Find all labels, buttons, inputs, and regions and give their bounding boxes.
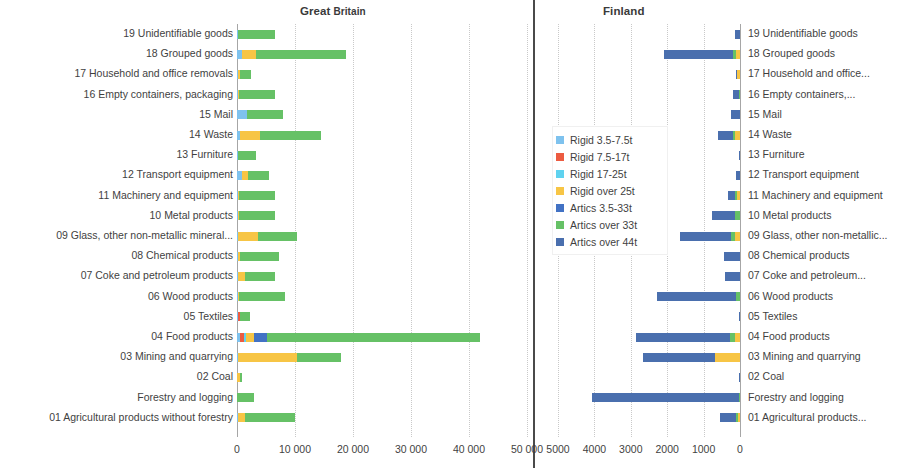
fi-bar-segment (737, 70, 740, 79)
gb-bar-segment (239, 191, 275, 200)
gb-stacked-bar (237, 191, 275, 200)
chart-page: Great Britain 19 Unidentifiable goods18 … (0, 0, 917, 468)
fi-category-label: 05 Textiles (748, 311, 917, 322)
fi-stacked-bar (739, 151, 740, 160)
fi-stacked-bar (731, 110, 740, 119)
gb-stacked-bar (237, 110, 283, 119)
fi-bar-segment (738, 413, 740, 422)
gb-stacked-bar (237, 312, 250, 321)
fi-bar-segment (725, 272, 740, 281)
gb-category-label: 19 Unidentifiable goods (0, 28, 233, 39)
fi-bar-segment (735, 333, 740, 342)
fi-bar-segment (718, 131, 734, 140)
legend-item[interactable]: Rigid 7.5-17t (556, 148, 664, 165)
great-britain-title: Great Britain (300, 5, 366, 17)
gb-bar-segment (245, 272, 276, 281)
gb-bar-segment (240, 373, 242, 382)
fi-stacked-bar (736, 171, 740, 180)
gb-category-label: 03 Mining and quarrying (0, 351, 233, 362)
fi-category-label: 12 Transport equipment (748, 169, 917, 180)
fi-stacked-bar (739, 312, 740, 321)
gb-stacked-bar (237, 151, 256, 160)
gb-stacked-bar (237, 333, 480, 342)
fi-bar-segment (731, 110, 740, 119)
gb-stacked-bar (237, 272, 275, 281)
gb-bar-segment (239, 90, 275, 99)
legend-swatch-icon (556, 221, 564, 229)
fi-bar-segment (737, 191, 740, 200)
gb-stacked-bar (237, 211, 275, 220)
legend-swatch-icon (556, 170, 564, 178)
gb-gridline (411, 24, 413, 437)
gb-bar-segment (256, 50, 346, 59)
fi-category-label: 04 Food products (748, 331, 917, 342)
gb-category-label: 11 Machinery and equipment (0, 190, 233, 201)
gb-category-label: 02 Coal (0, 371, 233, 382)
fi-bar-segment (664, 50, 733, 59)
fi-bar-segment (736, 292, 740, 301)
gb-bar-segment (238, 353, 297, 362)
legend-item[interactable]: Rigid 3.5-7.5t (556, 131, 664, 148)
fi-category-label: 19 Unidentifiable goods (748, 28, 917, 39)
gb-stacked-bar (237, 70, 251, 79)
gb-bar-segment (238, 151, 257, 160)
gb-category-label: 15 Mail (0, 109, 233, 120)
fi-category-label: 08 Chemical products (748, 250, 917, 261)
gb-stacked-bar (237, 50, 346, 59)
legend-label: Artics over 33t (570, 219, 637, 231)
legend-swatch-icon (556, 153, 564, 161)
gb-stacked-bar (237, 413, 295, 422)
gb-category-label: 10 Metal products (0, 210, 233, 221)
legend-item[interactable]: Rigid 17-25t (556, 165, 664, 182)
fi-bar-segment (739, 393, 740, 402)
fi-bar-segment (724, 252, 740, 261)
fi-bar-segment (735, 232, 740, 241)
fi-category-label: 18 Grouped goods (748, 48, 917, 59)
fi-category-label: 11 Machinery and equipment (748, 190, 917, 201)
fi-bar-segment (592, 393, 738, 402)
gb-category-label: 04 Food products (0, 331, 233, 342)
legend-label: Artics over 44t (570, 236, 637, 248)
gb-category-label: 08 Chemical products (0, 250, 233, 261)
fi-category-label: Forestry and logging (748, 392, 917, 403)
fi-category-label: 13 Furniture (748, 149, 917, 160)
legend-swatch-icon (556, 238, 564, 246)
fi-category-label: 14 Waste (748, 129, 917, 140)
fi-tick-label: 0 (700, 443, 780, 455)
legend-swatch-icon (556, 204, 564, 212)
gb-stacked-bar (237, 171, 269, 180)
great-britain-plot-area (237, 24, 527, 437)
legend-item[interactable]: Artics over 33t (556, 216, 664, 233)
gb-stacked-bar (237, 252, 279, 261)
fi-bar-segment (735, 30, 740, 39)
gb-category-label: 13 Furniture (0, 149, 233, 160)
legend-item[interactable]: Artics over 44t (556, 233, 664, 250)
fi-stacked-bar (724, 252, 740, 261)
fi-category-label: 15 Mail (748, 109, 917, 120)
gb-bar-segment (260, 131, 321, 140)
gb-bar-segment (267, 333, 480, 342)
fi-stacked-bar (657, 292, 740, 301)
fi-bar-segment (657, 292, 736, 301)
fi-bar-segment (736, 171, 740, 180)
gb-bar-segment (242, 50, 256, 59)
legend-item[interactable]: Rigid over 25t (556, 182, 664, 199)
gb-bar-segment (254, 333, 267, 342)
finland-title: Finland (603, 5, 645, 17)
legend-item[interactable]: Artics 3.5-33t (556, 199, 664, 216)
fi-category-label: 01 Agricultural products... (748, 412, 917, 423)
fi-stacked-bar (664, 50, 740, 59)
gb-bar-segment (238, 232, 259, 241)
title-sub-text: Britain (331, 6, 366, 17)
fi-bar-segment (739, 373, 740, 382)
gb-stacked-bar (237, 90, 275, 99)
gb-stacked-bar (237, 373, 242, 382)
finland-axis-ticks: 500040003000200010000 (535, 443, 917, 463)
fi-bar-segment (715, 353, 740, 362)
legend-label: Artics 3.5-33t (570, 202, 632, 214)
fi-bar-segment (739, 90, 740, 99)
fi-category-label: 07 Coke and petroleum... (748, 270, 917, 281)
fi-stacked-bar (739, 373, 740, 382)
legend-label: Rigid 7.5-17t (570, 151, 630, 163)
gb-bar-segment (238, 413, 245, 422)
